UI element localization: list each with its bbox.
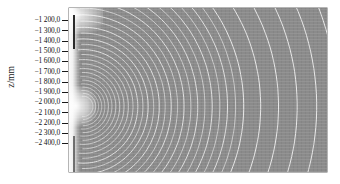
y-tick-mark (62, 71, 68, 72)
y-tick-mark (62, 112, 68, 113)
y-tick-mark (62, 133, 68, 134)
y-tick-mark (62, 143, 68, 144)
contour-line (206, 8, 278, 172)
contour-line (81, 77, 112, 137)
contour-line (74, 8, 184, 172)
y-tick-mark (62, 20, 68, 21)
y-tick-label: −1 600,0 (34, 57, 60, 64)
contour-line (80, 68, 120, 144)
y-tick-label: −1 700,0 (34, 68, 60, 75)
y-tick-mark (62, 102, 68, 103)
y-tick-label: −2 400,0 (34, 139, 60, 146)
y-tick-mark (62, 61, 68, 62)
y-tick-mark (62, 123, 68, 124)
contour-line (265, 8, 317, 172)
y-tick-label: −1 200,0 (34, 16, 60, 23)
y-tick-label: −1 900,0 (34, 88, 60, 95)
y-tick-label: −2 300,0 (34, 129, 60, 136)
lower-bar-icon (73, 136, 75, 172)
y-tick-mark (62, 30, 68, 31)
contour-line (82, 96, 93, 116)
y-tick-mark (62, 51, 68, 52)
antenna-bar-icon (73, 15, 75, 49)
y-tick-label: −1 800,0 (34, 78, 60, 85)
plot-area (69, 8, 327, 172)
contour-figure: z/mm −1 200,0−1 300,0−1 400,0−1 500,0−1 … (0, 0, 340, 184)
y-tick-mark (62, 41, 68, 42)
y-tick-mark (62, 82, 68, 83)
contour-lines (69, 8, 327, 172)
y-tick-label: −1 500,0 (34, 47, 60, 54)
y-tick-label: −2 000,0 (34, 98, 60, 105)
y-tick-mark (62, 92, 68, 93)
y-tick-label: −1 400,0 (34, 37, 60, 44)
y-axis-title: z/mm (6, 54, 16, 100)
contour-line-minor (83, 93, 96, 119)
y-axis-tick-labels: −1 200,0−1 300,0−1 400,0−1 500,0−1 600,0… (22, 8, 60, 172)
y-tick-label: −1 300,0 (34, 27, 60, 34)
contour-line (235, 8, 298, 172)
contour-line (79, 60, 128, 154)
contour-line-minor (82, 73, 116, 141)
y-tick-label: −2 100,0 (34, 109, 60, 116)
y-tick-label: −2 200,0 (34, 119, 60, 126)
